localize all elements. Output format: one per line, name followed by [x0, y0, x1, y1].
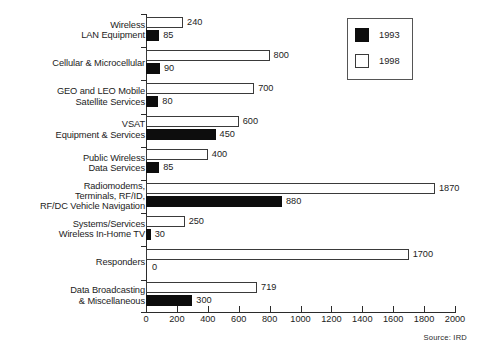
- bar-value-1993: 880: [286, 196, 301, 207]
- y-tick-mark: [141, 147, 147, 148]
- legend-swatch-white-icon: [355, 54, 369, 68]
- bar-1993: [146, 229, 151, 240]
- x-tick-mark: [393, 306, 394, 312]
- y-tick-mark: [141, 47, 147, 48]
- bar-1993: [146, 63, 160, 74]
- bar-value-1998: 250: [189, 216, 204, 227]
- x-tick-mark: [424, 306, 425, 312]
- bar-1998: [146, 282, 257, 293]
- bar-value-1998: 700: [258, 83, 273, 94]
- legend-label-1998: 1998: [379, 55, 400, 68]
- y-tick-mark: [141, 80, 147, 81]
- bar-1998: [146, 216, 185, 227]
- category-label: Systems/Services Wireless In-Home TV: [0, 219, 145, 240]
- y-tick-mark: [141, 280, 147, 281]
- bar-1998: [146, 149, 208, 160]
- x-tick-mark: [301, 306, 302, 312]
- bar-1993: [146, 196, 282, 207]
- bar-1993: [146, 30, 159, 41]
- bar-value-1993: 80: [162, 96, 172, 107]
- bar-1998: [146, 83, 254, 94]
- x-tick-mark: [177, 306, 178, 312]
- bar-value-1993: 85: [163, 162, 173, 173]
- bar-1998: [146, 50, 270, 61]
- bar-chart: 0200400600800100012001400160018002000 Wi…: [0, 0, 481, 350]
- source-note: Source: IRD: [423, 333, 467, 342]
- bar-value-1998: 1870: [439, 183, 459, 194]
- y-tick-mark: [141, 312, 147, 313]
- bar-1998: [146, 116, 239, 127]
- bar-1998: [146, 249, 409, 260]
- y-tick-mark: [141, 246, 147, 247]
- legend-swatch-black-icon: [355, 28, 369, 42]
- bar-value-1998: 600: [243, 116, 258, 127]
- x-tick-mark: [146, 306, 147, 312]
- bar-1998: [146, 183, 435, 194]
- category-label: Radiomodems, Terminals, RF/ID, RF/DC Veh…: [0, 181, 145, 212]
- bar-1993: [146, 129, 216, 140]
- category-label: Responders: [0, 257, 145, 267]
- bar-value-1998: 400: [212, 149, 227, 160]
- x-tick-mark: [239, 306, 240, 312]
- bar-value-1998: 719: [261, 282, 276, 293]
- bar-1993: [146, 96, 158, 107]
- x-tick-mark: [362, 306, 363, 312]
- bar-value-1998: 800: [274, 50, 289, 61]
- bar-value-1993: 300: [196, 295, 211, 306]
- bar-value-1993: 450: [220, 129, 235, 140]
- category-label: Public Wireless Data Services: [0, 153, 145, 174]
- category-label: VSAT Equipment & Services: [0, 119, 145, 140]
- y-tick-mark: [141, 114, 147, 115]
- bar-value-1993: 0: [152, 262, 157, 273]
- bar-value-1998: 240: [187, 17, 202, 28]
- bar-value-1993: 90: [164, 63, 174, 74]
- bar-1993: [146, 162, 159, 173]
- category-label: Wireless LAN Equipment: [0, 20, 145, 41]
- x-tick-label: 2000: [435, 314, 475, 324]
- legend: 1993 1998: [347, 18, 413, 80]
- bar-1998: [146, 17, 183, 28]
- category-label: GEO and LEO Mobile Satellite Services: [0, 86, 145, 107]
- x-tick-mark: [455, 306, 456, 312]
- x-tick-mark: [331, 306, 332, 312]
- bar-value-1993: 30: [155, 229, 165, 240]
- bar-value-1993: 85: [163, 30, 173, 41]
- category-label: Cellular & Microcellular: [0, 58, 145, 68]
- category-label: Data Broadcasting & Miscellaneous: [0, 285, 145, 306]
- legend-label-1993: 1993: [379, 29, 400, 42]
- x-axis-line: [146, 312, 456, 313]
- x-tick-mark: [208, 306, 209, 312]
- y-tick-mark: [141, 213, 147, 214]
- bar-1993: [146, 295, 192, 306]
- bar-value-1998: 1700: [413, 249, 433, 260]
- y-tick-mark: [141, 14, 147, 15]
- x-tick-mark: [270, 306, 271, 312]
